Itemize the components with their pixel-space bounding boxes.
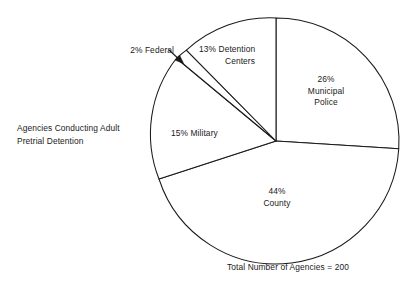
slice-label-municipal-police-name-2: Police [314, 97, 337, 107]
slice-label-county: 44%County [237, 186, 317, 209]
page-title: Agencies Conducting AdultPretrial Detent… [17, 122, 157, 147]
slice-label-county-name: County [263, 198, 290, 208]
slice-label-municipal-police-name-1: Municipal [308, 86, 344, 96]
slice-label-detention-centers-line-1: 13% Detention [199, 44, 255, 54]
slice-label-federal: 2% Federal [112, 45, 174, 57]
slice-label-detention-centers: 13% DetentionCenters [199, 44, 273, 67]
page-title-line-1: Agencies Conducting Adult [17, 123, 120, 133]
slice-label-municipal-police-percent: 26% [317, 74, 334, 84]
slice-label-county-percent: 44% [268, 186, 285, 196]
slice-label-detention-centers-line-2: Centers [199, 56, 273, 68]
total-agencies-caption: Total Number of Agencies = 200 [188, 262, 388, 274]
chart-page: Agencies Conducting AdultPretrial Detent… [0, 0, 418, 284]
slice-label-military: 15% Military [171, 128, 255, 140]
slice-label-municipal-police: 26%MunicipalPolice [288, 74, 364, 109]
page-title-line-2: Pretrial Detention [17, 136, 84, 146]
